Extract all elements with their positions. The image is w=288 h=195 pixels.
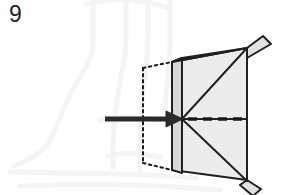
figure-container: 9: [0, 0, 288, 195]
figure-number-label: 9: [9, 3, 22, 26]
assembly-diagram-svg: [0, 0, 288, 195]
top-tab-facet: [247, 36, 271, 58]
bottom-tab-facet: [240, 180, 261, 195]
